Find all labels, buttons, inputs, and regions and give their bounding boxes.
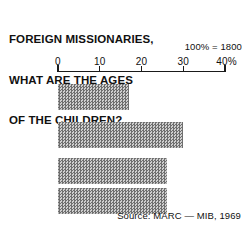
x-axis-tick-30 xyxy=(183,66,184,72)
x-axis-tick-10 xyxy=(99,66,100,72)
bar xyxy=(58,84,129,110)
bar xyxy=(58,158,167,184)
x-axis-tick-20 xyxy=(141,66,142,72)
bar-chart: 0 10 20 30 40% Under 6 Years 6-10 11-15 … xyxy=(0,0,247,228)
bar xyxy=(58,122,183,148)
x-axis-tick-40 xyxy=(224,65,225,72)
source-note: Source: MARC — MIB, 1969 xyxy=(117,210,241,221)
x-tick-label-40: 40% xyxy=(216,56,237,67)
x-axis-tick-0 xyxy=(57,65,58,72)
